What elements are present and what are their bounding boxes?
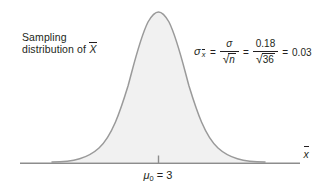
mu-value: 3 (166, 169, 172, 181)
sqrt-36: √36 (256, 53, 275, 66)
normal-curve-plot (0, 0, 326, 195)
sigma-glyph: σ (194, 45, 201, 57)
equals-sign-2: = (242, 47, 250, 58)
radical-sign-1: √ (223, 52, 230, 64)
equals-sign-1: = (209, 47, 217, 58)
mu-equals: = (154, 169, 167, 181)
caption-line-2-text: distribution of (22, 43, 89, 55)
x-axis-label: x (303, 148, 309, 160)
distribution-caption: Sampling distribution of X (22, 31, 97, 56)
sqrt-n: √n (223, 53, 236, 66)
sigma-xbar-symbol: σx (194, 45, 206, 59)
sigma-subscript-xbar: x (201, 50, 206, 59)
sampling-distribution-figure: Sampling distribution of X σx = σ √n = 0… (0, 0, 326, 195)
fraction-2-denominator: √36 (253, 51, 278, 66)
mu-naught-label: μ0 = 3 (0, 169, 316, 183)
radical-sign-2: √ (256, 52, 263, 64)
fraction-2-numerator: 0.18 (253, 39, 278, 51)
fraction-1-denominator: √n (220, 51, 239, 66)
standard-error-result: 0.03 (292, 47, 311, 58)
x-bar-axis-symbol: x (303, 148, 309, 160)
x-bar-symbol: X (89, 43, 97, 55)
standard-error-formula: σx = σ √n = 0.18 √36 = 0.03 (194, 39, 312, 65)
caption-line-1: Sampling (22, 31, 97, 43)
equals-sign-3: = (281, 47, 289, 58)
fraction-1-numerator: σ (223, 39, 235, 51)
caption-line-2: distribution of X (22, 43, 97, 55)
radicand-36: 36 (262, 53, 275, 66)
fraction-sigma-over-sqrt-n: σ √n (220, 39, 239, 65)
fraction-018-over-sqrt-36: 0.18 √36 (253, 39, 278, 65)
